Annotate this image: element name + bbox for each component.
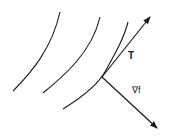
tangent-label: T bbox=[128, 50, 134, 61]
level-curve-1 bbox=[13, 12, 60, 91]
diagram-canvas: T ∇f bbox=[0, 0, 169, 138]
level-curve-2 bbox=[43, 17, 100, 93]
gradient-label: ∇f bbox=[131, 85, 141, 95]
tangent-vector-arrow bbox=[102, 17, 150, 77]
gradient-vector-arrow bbox=[102, 77, 157, 128]
